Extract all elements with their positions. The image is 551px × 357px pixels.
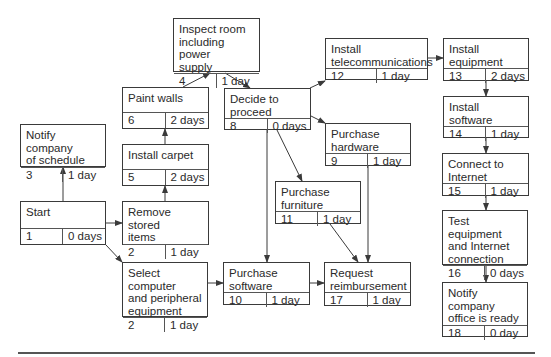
task-meta: 15 1 day [443, 183, 528, 198]
task-title: Install carpet [123, 145, 208, 169]
task-id: 5 [123, 170, 166, 185]
task-id: 17 [325, 293, 368, 307]
task-title: Request reimbursement [325, 263, 410, 292]
task-node-start: Start 1 0 days [20, 201, 106, 245]
task-duration: 1 day [368, 154, 410, 168]
task-node-hardware: Purchase hardware 9 1 day [325, 123, 411, 166]
task-meta: 17 1 day [325, 292, 410, 307]
task-title: Purchase furniture [276, 182, 360, 211]
task-id: 15 [443, 184, 486, 198]
task-meta: 1 0 days [21, 228, 105, 244]
task-duration: 1 day [368, 293, 411, 307]
task-duration: 0 days [485, 266, 527, 280]
task-node-remove: Remove stored items 2 1 day [122, 201, 209, 245]
arrow-decide-to-furniture [277, 130, 302, 181]
task-duration: 2 days [166, 113, 209, 128]
task-node-internet: Connect to Internet 15 1 day [442, 153, 529, 196]
task-node-carpet: Install carpet 5 2 days [122, 144, 209, 186]
task-meta: 5 2 days [123, 169, 208, 185]
task-duration: 0 day [485, 326, 527, 340]
task-node-equipment: Install equipment 13 2 days [443, 38, 529, 81]
task-id: 2 [123, 245, 166, 259]
task-duration: 1 day [267, 293, 310, 307]
task-meta: 2 1 day [123, 317, 207, 332]
task-node-paint: Paint walls 6 2 days [122, 87, 209, 129]
task-title: Purchase software [224, 263, 309, 292]
task-id: 2 [123, 318, 165, 332]
task-id: 6 [123, 113, 166, 128]
task-duration: 1 day [486, 184, 529, 198]
task-meta: 4 1 day [174, 73, 259, 88]
task-id: 14 [444, 127, 486, 141]
task-title: Paint walls [123, 88, 208, 112]
task-meta: 13 2 days [444, 68, 528, 83]
task-id: 3 [21, 168, 63, 182]
task-node-decide: Decide to proceed 8 0 days [224, 88, 311, 130]
task-meta: 10 1 day [224, 292, 309, 307]
task-id: 9 [326, 154, 368, 168]
task-duration: 1 day [217, 74, 260, 88]
task-id: 16 [443, 266, 485, 280]
task-title: Notify company office is ready [443, 283, 527, 325]
task-id: 12 [326, 69, 377, 83]
task-title: Test equipment and Internet connection [443, 211, 527, 265]
task-meta: 16 0 days [443, 265, 527, 280]
task-meta: 11 1 day [276, 211, 360, 226]
task-node-software_buy: Purchase software 10 1 day [223, 262, 310, 305]
task-duration: 0 days [63, 229, 105, 244]
task-duration: 2 days [166, 170, 209, 185]
task-duration: 1 day [318, 212, 360, 226]
task-node-ready: Notify company office is ready 18 0 day [442, 282, 528, 337]
task-title: Decide to proceed [225, 89, 310, 118]
task-id: 11 [276, 212, 318, 226]
task-duration: 2 days [486, 69, 528, 83]
task-title: Connect to Internet [443, 154, 528, 183]
task-meta: 18 0 day [443, 325, 527, 340]
task-title: Start [21, 202, 105, 228]
arrow-furniture-to-reimburse [330, 224, 358, 262]
task-duration: 1 day [377, 69, 428, 83]
task-meta: 6 2 days [123, 112, 208, 128]
task-meta: 8 0 days [225, 118, 310, 133]
task-duration: 0 days [268, 119, 311, 133]
task-title: Select computer and peripheral equipment [123, 263, 207, 317]
task-title: Install software [444, 97, 528, 126]
task-meta: 2 1 day [123, 244, 208, 259]
task-title: Install telecommunications [326, 39, 427, 68]
task-duration: 1 day [486, 127, 528, 141]
task-node-telecom: Install telecommunications 12 1 day [325, 38, 428, 80]
task-duration: 1 day [166, 245, 209, 259]
task-meta: 9 1 day [326, 153, 410, 168]
task-id: 1 [21, 229, 63, 244]
task-duration: 1 day [63, 168, 105, 182]
task-meta: 14 1 day [444, 126, 528, 141]
task-node-test: Test equipment and Internet connection 1… [442, 210, 528, 265]
task-id: 8 [225, 119, 268, 133]
task-duration: 1 day [165, 318, 207, 332]
arrow-start-to-select [106, 245, 122, 262]
task-title: Inspect room including power supply [174, 19, 259, 73]
arrow-decide-to-telecom [310, 81, 325, 88]
task-title: Remove stored items [123, 202, 208, 244]
task-node-select: Select computer and peripheral equipment… [122, 262, 208, 317]
task-node-reimburse: Request reimbursement 17 1 day [324, 262, 411, 306]
task-meta: 3 1 day [21, 167, 105, 182]
task-node-furniture: Purchase furniture 11 1 day [275, 181, 361, 224]
task-id: 4 [174, 74, 217, 88]
task-node-notify: Notify company of schedule 3 1 day [20, 124, 106, 167]
task-title: Install equipment [444, 39, 528, 68]
task-title: Notify company of schedule [21, 125, 105, 167]
task-id: 18 [443, 326, 485, 340]
task-id: 10 [224, 293, 267, 307]
task-id: 13 [444, 69, 486, 83]
network-diagram: Inspect room including power supply 4 1 … [0, 0, 551, 357]
task-meta: 12 1 day [326, 68, 427, 83]
task-title: Purchase hardware [326, 124, 410, 153]
task-node-inspect: Inspect room including power supply 4 1 … [173, 18, 260, 72]
bottom-divider [18, 352, 535, 354]
task-node-software_inst: Install software 14 1 day [443, 96, 529, 138]
arrow-decide-to-hardware [311, 116, 325, 123]
